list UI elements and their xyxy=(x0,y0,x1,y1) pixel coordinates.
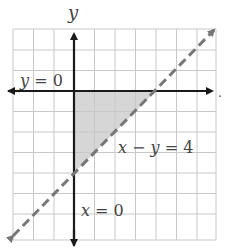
y-axis-label: y xyxy=(67,2,79,23)
label-y-eq-0: y = 0 xyxy=(19,71,63,90)
x-axis-label: . xyxy=(218,86,222,100)
label-x-eq-0: x = 0 xyxy=(81,201,124,220)
graph-canvas: y . y = 0 x − y = 4 x = 0 xyxy=(0,0,226,251)
label-x-minus-y-eq-4: x − y = 4 xyxy=(118,138,193,157)
